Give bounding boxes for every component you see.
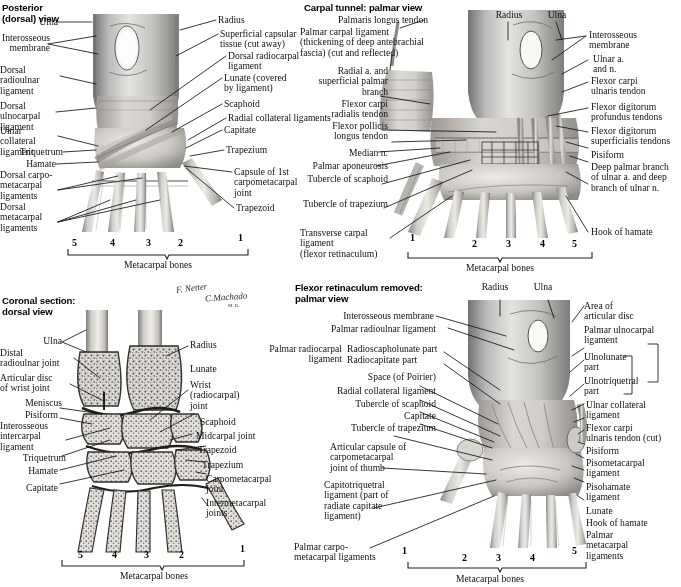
label-hook-of-hamate: Hook of hamate	[591, 227, 681, 237]
label-flexor-carpi-ulnaris-tendon: Flexor carpi ulnaris tendon	[591, 76, 681, 97]
label-dorsal-carpometacarpal-ligaments: Dorsal carpo- metacarpal ligaments	[0, 170, 62, 201]
metacarpal-bones-caption: Metacarpal bones	[84, 570, 224, 581]
label-scaphoid-bl: Scaphoid	[200, 417, 272, 427]
label-flexor-pollicis-longus-tendon: Flexor pollicis longus tendon	[306, 121, 388, 142]
label-ulna-br: Ulna	[520, 282, 566, 292]
anatomy-plate: Posterior (dorsal) view Ulna Interosseou…	[0, 0, 681, 587]
label-interosseous-membrane-tr: Interosseous membrane	[589, 30, 681, 51]
label-ulnar-artery-and-nerve: Ulnar a. and n.	[593, 54, 681, 75]
metacarpal-number-1: 1	[240, 543, 245, 554]
metacarpal-number-3: 3	[506, 238, 511, 249]
label-superficial-capsular-tissue: Superficial capsular tissue (cut away)	[220, 29, 304, 50]
label-ulnolunate-part: Ulnolunate part	[584, 352, 664, 373]
label-capitate-br: Capitate	[304, 411, 436, 421]
label-space-of-poirier: Space (of Poirier)	[310, 372, 436, 382]
label-radius: Radius	[218, 15, 300, 25]
metacarpal-number-3: 3	[496, 552, 501, 563]
label-articular-disc-of-wrist-joint: Articular disc of wrist joint	[0, 373, 76, 394]
label-radioscapholunate-part: Radioscapholunate part	[347, 344, 443, 354]
label-ulnotriquetral-part: Ulnotriquetral part	[584, 376, 664, 397]
label-pisiform-br: Pisiform	[586, 446, 678, 456]
panel-title-flexor-retinaculum-removed: Flexor retinaculum removed: palmar view	[295, 283, 423, 304]
label-tubercle-of-scaphoid: Tubercle of scaphoid	[300, 174, 388, 184]
label-intermetacarpal-joints: Intermetacarpal joints	[206, 498, 300, 519]
panel-coronal-section: Coronal section: dorsal view Ulna Distal…	[0, 280, 300, 587]
label-area-of-articular-disc: Area of articular disc	[584, 301, 681, 322]
label-interosseous-membrane-br: Interosseous membrane	[304, 311, 434, 321]
label-ulnar-collateral-ligament-br: Ulnar collateral ligament	[586, 400, 678, 421]
metacarpal-number-3: 3	[144, 549, 149, 560]
panel-carpal-tunnel: Carpal tunnel: palmar view Palmaris long…	[300, 0, 681, 278]
label-palmar-radioulnar-ligament: Palmar radioulnar ligament	[304, 324, 436, 334]
label-lunate: Lunate (covered by ligament)	[224, 73, 302, 94]
label-radius-top: Radius	[486, 10, 532, 20]
label-flexor-digitorum-superficialis-tendons: Flexor digitorum superficialis tendons	[591, 126, 681, 147]
metacarpal-number-4: 4	[530, 552, 535, 563]
metacarpal-number-2: 2	[462, 552, 467, 563]
metacarpal-number-2: 2	[178, 237, 183, 248]
label-radiocapitate-part: Radiocapitate part	[347, 355, 443, 365]
label-interosseous-membrane: Interosseous membrane	[0, 33, 50, 54]
label-tubercle-of-trapezium-br: Tubercle of trapezium	[304, 423, 436, 433]
metacarpal-number-5: 5	[572, 545, 577, 556]
label-flexor-carpi-radialis-tendon: Flexor carpi radialis tendon	[306, 99, 388, 120]
label-hamate-bl: Hamate	[0, 466, 58, 476]
panel-flexor-retinaculum-removed: Flexor retinaculum removed: palmar view …	[290, 280, 681, 587]
label-distal-radioulnar-joint: Distal radioulnar joint	[0, 348, 76, 369]
metacarpal-number-1: 1	[238, 232, 243, 243]
label-flexor-digitorum-profundus-tendons: Flexor digitorum profundus tendons	[591, 102, 681, 123]
label-deep-palmar-branch-ulnar: Deep palmar branch of ulnar a. and deep …	[591, 162, 681, 193]
label-scaphoid: Scaphoid	[224, 99, 294, 109]
label-dorsal-radiocarpal-ligament: Dorsal radiocarpal ligament	[228, 51, 304, 72]
label-tubercle-of-scaphoid-br: Tubercle of scaphoid	[304, 399, 436, 409]
label-ulna-bl: Ulna	[0, 336, 62, 346]
label-triquetrum: Triquetrum	[0, 147, 63, 157]
label-wrist-radiocarpal-joint: Wrist (radiocarpal) joint	[190, 380, 262, 411]
label-hamate: Hamate	[0, 159, 56, 169]
label-median-nerve: Median n.	[306, 148, 388, 158]
label-interosseous-intercarpal-ligament: Interosseous intercarpal ligament	[0, 421, 66, 452]
label-triquetrum-bl: Triquetrum	[0, 453, 66, 463]
metacarpal-number-1: 1	[402, 545, 407, 556]
metacarpal-number-4: 4	[112, 549, 117, 560]
metacarpal-number-1: 1	[410, 232, 415, 243]
label-trapezoid-bl: Trapezoid	[198, 445, 278, 455]
panel-title-carpal-tunnel: Carpal tunnel: palmar view	[304, 3, 422, 14]
label-capitate-bl: Capitate	[0, 483, 58, 493]
panel-posterior-dorsal: Posterior (dorsal) view Ulna Interosseou…	[0, 0, 300, 278]
label-palmaris-longus-tendon: Palmaris longus tendon	[308, 15, 428, 25]
label-flexor-carpi-ulnaris-tendon-cut: Flexor carpi ulnaris tendon (cut)	[586, 423, 681, 444]
label-trapezoid: Trapezoid	[236, 203, 300, 213]
label-tubercle-of-trapezium: Tubercle of trapezium	[300, 199, 388, 209]
label-radial-collateral-ligament: Radial collateral ligament	[304, 386, 436, 396]
label-palmar-carpal-ligament: Palmar carpal ligament (thickening of de…	[300, 27, 432, 58]
label-carpometacarpal-joint: Carpometacarpal joint	[206, 474, 300, 495]
label-ulna-top: Ulna	[534, 10, 580, 20]
metacarpal-number-4: 4	[110, 237, 115, 248]
label-palmar-ulnocarpal-ligament: Palmar ulnocarpal ligament	[584, 325, 681, 346]
label-lunate-bl: Lunate	[190, 364, 262, 374]
label-pisohamate-ligament: Pisohamate ligament	[586, 482, 678, 503]
label-palmar-carpometacarpal-ligaments: Palmar carpo- metacarpal ligaments	[294, 542, 418, 563]
label-trapezium-bl: Trapezium	[202, 460, 282, 470]
label-palmar-metacarpal-ligaments: Palmar metacarpal ligaments	[586, 530, 678, 561]
metacarpal-number-3: 3	[146, 237, 151, 248]
label-capsule-first-cmc-joint: Capsule of 1st carpometacarpal joint	[234, 167, 304, 198]
label-radius-br: Radius	[472, 282, 518, 292]
label-articular-capsule-cmc-thumb: Articular capsule of carpometacarpal joi…	[330, 442, 434, 473]
label-dorsal-metacarpal-ligaments: Dorsal metacarpal ligaments	[0, 202, 58, 233]
label-ulna: Ulna	[0, 17, 58, 27]
metacarpal-bones-caption: Metacarpal bones	[420, 573, 560, 584]
metacarpal-number-4: 4	[540, 238, 545, 249]
metacarpal-number-2: 2	[472, 238, 477, 249]
label-capitate: Capitate	[224, 125, 294, 135]
label-radial-artery-superficial-palmar-branch: Radial a. and superficial palmar branch	[306, 66, 388, 97]
metacarpal-number-5: 5	[72, 237, 77, 248]
label-pisiform: Pisiform	[591, 150, 681, 160]
metacarpal-number-5: 5	[78, 549, 83, 560]
label-dorsal-radioulnar-ligament: Dorsal radioulnar ligament	[0, 65, 62, 96]
label-capitotriquetral-ligament: Capitotriquetral ligament (part of radia…	[324, 480, 434, 522]
label-palmar-radiocarpal-ligament: Palmar radiocarpal ligament	[242, 344, 342, 365]
label-trapezium: Trapezium	[226, 145, 296, 155]
label-pisiform-bl: Pisiform	[0, 410, 58, 420]
